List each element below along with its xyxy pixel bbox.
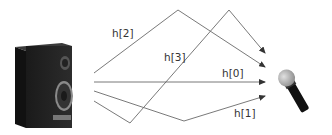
multipath-diagram: h[2] h[3] h[0] h[1] [0, 0, 332, 135]
path-h2 [94, 10, 265, 73]
microphone-icon [275, 66, 313, 115]
label-h0: h[0] [222, 67, 244, 79]
label-h3: h[3] [164, 51, 186, 63]
label-h2: h[2] [112, 27, 134, 39]
label-h1: h[1] [234, 107, 256, 119]
speaker-icon [15, 43, 73, 128]
